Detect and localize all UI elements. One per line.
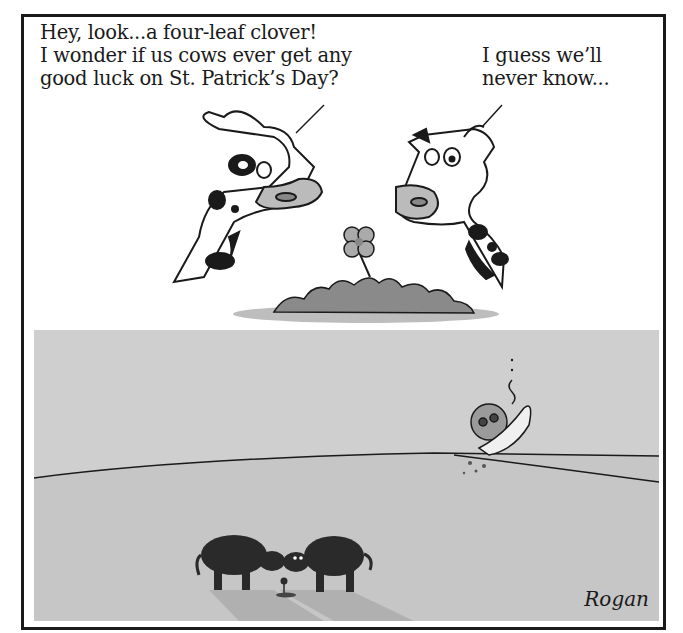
four-leaf-clover-icon bbox=[344, 227, 374, 277]
cow-right-head-icon bbox=[396, 126, 508, 287]
top-panel: Hey, look...a four-leaf clover! I wonder… bbox=[24, 17, 663, 330]
speech-tail-right bbox=[482, 105, 502, 127]
speech-tail-left bbox=[296, 105, 324, 133]
top-illustration bbox=[24, 17, 663, 330]
comic-frame: Hey, look...a four-leaf clover! I wonder… bbox=[21, 14, 666, 630]
bottom-illustration bbox=[34, 330, 659, 621]
bottom-panel: Rogan bbox=[34, 330, 659, 621]
crashed-ufo-icon bbox=[471, 404, 531, 455]
cow-left-head-icon bbox=[174, 111, 322, 282]
smoke-icon bbox=[509, 380, 515, 404]
artist-signature: Rogan bbox=[584, 587, 649, 611]
clover-patch-icon bbox=[233, 278, 499, 323]
